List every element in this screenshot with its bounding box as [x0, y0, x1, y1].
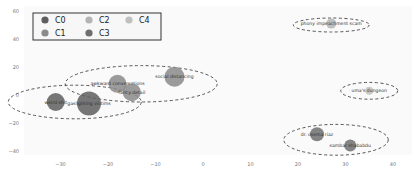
legend-marker: [125, 16, 132, 23]
legend-marker: [85, 29, 92, 36]
legend: C0C1C2C3C4: [33, 13, 161, 40]
x-tick-label: −20: [103, 161, 114, 167]
x-tick-label: 40: [390, 161, 396, 167]
legend-label: C0: [55, 16, 66, 25]
legend-marker: [41, 16, 48, 23]
legend-label: C4: [139, 16, 150, 25]
y-tick-label: 20: [13, 64, 19, 70]
point-label: weird shit: [45, 100, 68, 105]
legend-label: C1: [55, 29, 66, 38]
legend-label: C2: [99, 16, 110, 25]
x-tick-label: −10: [150, 161, 161, 167]
y-tick-label: −20: [8, 120, 19, 126]
point-label: sambar shababdu: [330, 143, 371, 148]
x-tick-label: 30: [342, 161, 348, 167]
x-tick-label: 0: [201, 161, 204, 167]
y-tick-label: 0: [16, 92, 19, 98]
x-tick-label: 10: [247, 161, 253, 167]
scatter-chart: weird shitgaslighting victimsawkward con…: [0, 0, 416, 176]
y-tick-label: −40: [8, 148, 19, 154]
point-label: gaslighting victims: [67, 101, 111, 106]
point-label: phony impeachment scam: [301, 21, 363, 26]
y-tick-label: 40: [13, 36, 19, 42]
legend-label: C3: [99, 29, 110, 38]
point-label: uma's dungeon: [351, 88, 387, 93]
x-tick-label: −30: [55, 161, 66, 167]
legend-marker: [85, 16, 92, 23]
point-label: social distancing: [155, 74, 193, 79]
legend-marker: [41, 29, 48, 36]
y-tick-label: 60: [13, 8, 19, 14]
x-tick-label: 20: [295, 161, 301, 167]
point-label: fancy detail: [118, 90, 145, 95]
point-label: dr. osema riaz: [301, 132, 334, 137]
